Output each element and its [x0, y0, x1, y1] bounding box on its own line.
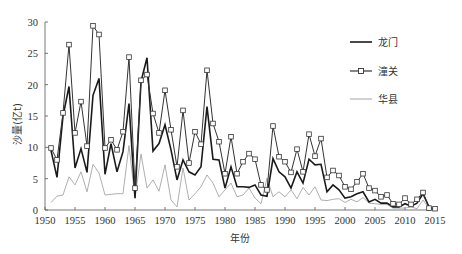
- square-marker-icon: [265, 188, 270, 193]
- square-marker-icon: [301, 170, 306, 175]
- x-tick-label: 1955: [65, 215, 86, 226]
- square-marker-icon: [55, 158, 60, 163]
- square-marker-icon: [205, 68, 210, 73]
- series-tongguan: [49, 24, 438, 212]
- x-tick-label: 1975: [185, 215, 206, 226]
- square-marker-icon: [157, 131, 162, 136]
- square-marker-icon: [421, 190, 426, 195]
- square-marker-icon: [331, 168, 336, 173]
- square-marker-icon: [359, 69, 364, 74]
- square-marker-icon: [163, 88, 168, 93]
- square-marker-icon: [385, 193, 390, 198]
- y-tick-label: 15: [28, 111, 39, 122]
- square-marker-icon: [253, 157, 258, 162]
- square-marker-icon: [415, 197, 420, 202]
- y-axis-title: 沙量(亿t): [11, 103, 23, 145]
- square-marker-icon: [241, 159, 246, 164]
- square-marker-icon: [379, 195, 384, 200]
- square-marker-icon: [307, 132, 312, 137]
- square-marker-icon: [73, 131, 78, 136]
- square-marker-icon: [391, 201, 396, 206]
- square-marker-icon: [403, 196, 408, 201]
- square-marker-icon: [49, 146, 54, 151]
- square-marker-icon: [295, 147, 300, 152]
- x-tick-label: 1985: [245, 215, 266, 226]
- square-marker-icon: [427, 206, 432, 211]
- square-marker-icon: [133, 186, 138, 191]
- sediment-line-chart: 0510152025301950195519601965197019751980…: [0, 0, 462, 254]
- square-marker-icon: [193, 129, 198, 134]
- square-marker-icon: [97, 32, 102, 37]
- x-tick-label: 2010: [395, 215, 416, 226]
- square-marker-icon: [115, 148, 120, 153]
- series-line: [51, 26, 435, 209]
- x-tick-label: 1990: [275, 215, 296, 226]
- square-marker-icon: [433, 206, 438, 211]
- square-marker-icon: [277, 154, 282, 159]
- square-marker-icon: [235, 171, 240, 176]
- square-marker-icon: [229, 134, 234, 139]
- square-marker-icon: [397, 202, 402, 207]
- series-group: [49, 24, 438, 212]
- square-marker-icon: [343, 185, 348, 190]
- x-tick-label: 1965: [125, 215, 146, 226]
- y-tick-label: 25: [28, 48, 39, 59]
- square-marker-icon: [289, 170, 294, 175]
- x-tick-label: 1960: [95, 215, 116, 226]
- x-tick-label: 1970: [155, 215, 176, 226]
- square-marker-icon: [145, 72, 150, 77]
- legend-item-tongguan: 潼关: [350, 65, 398, 77]
- square-marker-icon: [187, 161, 192, 166]
- square-marker-icon: [151, 111, 156, 116]
- x-tick-label: 2000: [335, 215, 356, 226]
- square-marker-icon: [211, 121, 216, 126]
- y-tick-label: 30: [28, 17, 39, 28]
- y-tick-label: 5: [33, 174, 38, 185]
- y-tick-label: 10: [28, 142, 39, 153]
- square-marker-icon: [175, 165, 180, 170]
- square-marker-icon: [409, 202, 414, 207]
- square-marker-icon: [349, 187, 354, 192]
- legend-label: 潼关: [378, 65, 398, 77]
- square-marker-icon: [85, 144, 90, 149]
- square-marker-icon: [319, 136, 324, 141]
- square-marker-icon: [373, 188, 378, 193]
- square-marker-icon: [199, 142, 204, 147]
- square-marker-icon: [169, 128, 174, 133]
- square-marker-icon: [223, 171, 228, 176]
- square-marker-icon: [103, 146, 108, 151]
- x-axis-title: 年份: [230, 232, 250, 244]
- y-tick-label: 20: [28, 80, 39, 91]
- square-marker-icon: [127, 55, 132, 60]
- x-tick-label: 1980: [215, 215, 236, 226]
- legend-item-huaxian: 华县: [350, 93, 398, 105]
- square-marker-icon: [367, 186, 372, 191]
- square-marker-icon: [355, 180, 360, 185]
- square-marker-icon: [91, 24, 96, 29]
- x-tick-label: 2005: [365, 215, 386, 226]
- square-marker-icon: [181, 108, 186, 113]
- square-marker-icon: [79, 99, 84, 104]
- square-marker-icon: [67, 42, 72, 47]
- series-longmen: [51, 58, 435, 210]
- square-marker-icon: [139, 78, 144, 83]
- legend-item-longmen: 龙门: [350, 36, 398, 48]
- square-marker-icon: [313, 154, 318, 159]
- square-marker-icon: [247, 151, 252, 156]
- square-marker-icon: [109, 138, 114, 143]
- square-marker-icon: [121, 129, 126, 134]
- legend: 龙门 潼关 华县: [350, 36, 398, 105]
- legend-label: 龙门: [378, 36, 398, 48]
- x-tick-label: 1995: [305, 215, 326, 226]
- legend-label: 华县: [378, 93, 398, 105]
- square-marker-icon: [283, 159, 288, 164]
- series-line: [51, 58, 435, 210]
- square-marker-icon: [361, 171, 366, 176]
- square-marker-icon: [337, 173, 342, 178]
- square-marker-icon: [61, 111, 66, 116]
- square-marker-icon: [259, 183, 264, 188]
- square-marker-icon: [271, 124, 276, 129]
- square-marker-icon: [217, 139, 222, 144]
- square-marker-icon: [325, 175, 330, 180]
- x-tick-label: 2015: [425, 215, 446, 226]
